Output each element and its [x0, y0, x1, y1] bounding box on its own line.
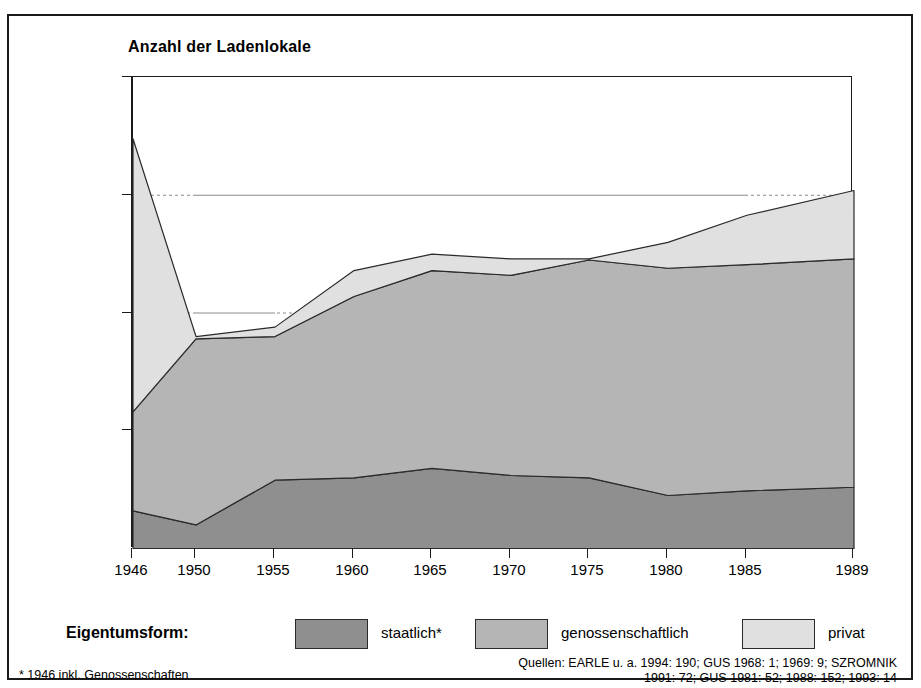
x-axis-tick [273, 548, 274, 558]
stacked-area-chart [131, 76, 856, 551]
x-axis-tick [131, 548, 132, 558]
x-axis-tick [430, 548, 431, 558]
x-axis-label: 1955 [256, 561, 289, 578]
legend: Eigentumsform: staatlich* genossenschaft… [9, 616, 915, 656]
sources-line-2: 1991: 72; GUS 1981: 52; 1988: 152; 1993:… [518, 671, 897, 686]
x-axis-label: 1965 [413, 561, 446, 578]
y-axis: 50 000100 000150 000200 000 [9, 16, 131, 616]
x-axis-tick [852, 548, 853, 558]
cropped-caption-sliver [0, 0, 921, 13]
sources-line-1: Quellen: EARLE u. a. 1994: 190; GUS 1968… [518, 656, 897, 671]
x-axis-label: 1985 [728, 561, 761, 578]
y-axis-tick [122, 76, 131, 77]
sources-note: Quellen: EARLE u. a. 1994: 190; GUS 1968… [518, 656, 897, 686]
plot-title: Anzahl der Ladenlokale [128, 38, 311, 56]
legend-swatch-genossenschaftlich [475, 619, 548, 649]
legend-label-privat: privat [828, 624, 865, 641]
x-axis-label: 1946 [114, 561, 147, 578]
y-axis-tick [122, 429, 131, 430]
x-axis-tick [745, 548, 746, 558]
x-axis-label: 1950 [177, 561, 210, 578]
legend-swatch-privat [742, 619, 815, 649]
figure-frame: Anzahl der Ladenlokale 50 000100 000150 … [7, 14, 913, 680]
cropped-caption-text [0, 0, 921, 5]
x-axis-tick [194, 548, 195, 558]
x-axis-tick [352, 548, 353, 558]
x-axis-label: 1975 [570, 561, 603, 578]
y-axis-tick [122, 194, 131, 195]
x-axis-label: 1989 [835, 561, 868, 578]
footnote: * 1946 inkl. Genossenschaften [19, 668, 189, 682]
x-axis-label: 1980 [649, 561, 682, 578]
legend-title: Eigentumsform: [66, 624, 189, 642]
figure-page: Anzahl der Ladenlokale 50 000100 000150 … [0, 0, 921, 688]
x-axis-label: 1970 [492, 561, 525, 578]
y-axis-tick [122, 312, 131, 313]
legend-label-staatlich: staatlich* [381, 624, 442, 641]
x-axis-label: 1960 [335, 561, 368, 578]
plot-area [131, 76, 852, 547]
sources-text-1: Quellen: EARLE u. a. 1994: 190; GUS 1968… [518, 656, 897, 670]
legend-label-genossenschaftlich: genossenschaftlich [561, 624, 689, 641]
x-axis-tick [587, 548, 588, 558]
legend-swatch-staatlich [295, 619, 368, 649]
x-axis-tick [666, 548, 667, 558]
x-axis-tick [509, 548, 510, 558]
